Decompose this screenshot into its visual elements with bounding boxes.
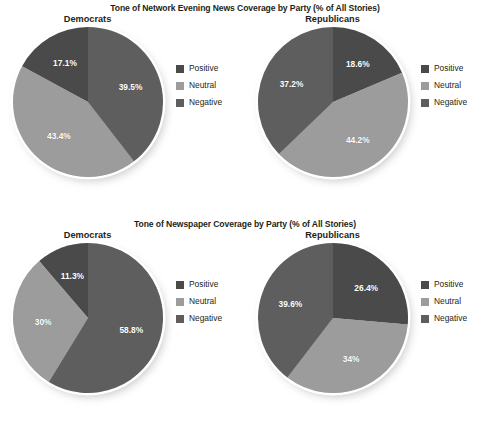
legend-label-negative: Negative <box>189 314 222 322</box>
slice-label-negative: 37.2% <box>280 79 304 89</box>
chart-panel-republicans: Republicans 18.6% 44.2% 37.2% Positive <box>245 14 490 214</box>
chart-section-network-news: Tone of Network Evening News Coverage by… <box>0 0 490 216</box>
legend-item-negative[interactable]: Negative <box>176 310 244 327</box>
slice-label-neutral: 44.2% <box>346 135 370 145</box>
slice-label-positive: 11.3% <box>61 271 84 281</box>
pie-svg <box>258 243 408 393</box>
legend-swatch-positive-icon <box>176 65 184 73</box>
chart-section-newspaper: Tone of Newspaper Coverage by Party (% o… <box>0 216 490 432</box>
pie-slices <box>258 243 408 393</box>
pie-slices <box>258 27 408 177</box>
legend-item-neutral[interactable]: Neutral <box>176 77 244 94</box>
pie-chart-figure: Tone of Network Evening News Coverage by… <box>0 0 490 432</box>
pie-chart-1: 18.6% 44.2% 37.2% <box>258 27 408 177</box>
legend-label-neutral: Neutral <box>434 297 461 305</box>
legend-swatch-negative-icon <box>421 315 429 323</box>
slice-label-positive: 17.1% <box>53 58 77 68</box>
legend-item-positive[interactable]: Positive <box>176 60 244 77</box>
chart-panel-democrats: Democrats 17.1% 43.4% 39.5% Positive <box>0 14 245 214</box>
chart-legend: Positive Neutral Negative <box>176 60 244 111</box>
slice-label-neutral: 43.4% <box>47 131 71 141</box>
pie-slices <box>13 27 163 177</box>
legend-item-negative[interactable]: Negative <box>421 310 489 327</box>
legend-label-neutral: Neutral <box>189 81 216 89</box>
legend-label-negative: Negative <box>434 98 467 106</box>
legend-item-neutral[interactable]: Neutral <box>176 293 244 310</box>
legend-swatch-positive-icon <box>176 281 184 289</box>
slice-label-negative: 39.5% <box>119 82 143 92</box>
pie-body <box>13 27 163 177</box>
chart-legend: Positive Neutral Negative <box>176 276 244 327</box>
chart-legend: Positive Neutral Negative <box>421 60 489 111</box>
section-title: Tone of Newspaper Coverage by Party (% o… <box>0 219 490 229</box>
slice-label-negative: 39.6% <box>279 299 303 309</box>
pie-body <box>258 243 408 393</box>
panel-title: Republicans <box>245 14 420 24</box>
slice-label-neutral: 34% <box>343 354 360 364</box>
legend-item-neutral[interactable]: Neutral <box>421 77 489 94</box>
pie-svg <box>13 27 163 177</box>
legend-label-negative: Negative <box>189 98 222 106</box>
legend-swatch-neutral-icon <box>421 82 429 90</box>
slice-label-negative: 58.8% <box>119 325 143 335</box>
legend-item-negative[interactable]: Negative <box>421 94 489 111</box>
legend-label-positive: Positive <box>434 64 463 72</box>
legend-swatch-neutral-icon <box>176 82 184 90</box>
legend-label-negative: Negative <box>434 314 467 322</box>
chart-panel-republicans: Republicans 26.4% 34% 39.6% Positive <box>245 230 490 430</box>
legend-item-positive[interactable]: Positive <box>421 60 489 77</box>
pie-chart-0: 17.1% 43.4% 39.5% <box>13 27 163 177</box>
legend-label-positive: Positive <box>434 280 463 288</box>
panel-title: Republicans <box>245 230 420 240</box>
section-title: Tone of Network Evening News Coverage by… <box>0 3 490 13</box>
legend-item-neutral[interactable]: Neutral <box>421 293 489 310</box>
slice-label-positive: 26.4% <box>354 283 378 293</box>
legend-swatch-neutral-icon <box>176 298 184 306</box>
legend-swatch-neutral-icon <box>421 298 429 306</box>
pie-chart-2: 11.3% 30% 58.8% <box>13 243 163 393</box>
legend-label-neutral: Neutral <box>189 297 216 305</box>
legend-label-positive: Positive <box>189 280 218 288</box>
legend-swatch-negative-icon <box>176 99 184 107</box>
slice-label-positive: 18.6% <box>346 59 370 69</box>
pie-body <box>258 27 408 177</box>
slice-label-neutral: 30% <box>35 317 52 327</box>
legend-label-positive: Positive <box>189 64 218 72</box>
legend-swatch-positive-icon <box>421 65 429 73</box>
legend-swatch-negative-icon <box>421 99 429 107</box>
legend-item-positive[interactable]: Positive <box>176 276 244 293</box>
pie-chart-3: 26.4% 34% 39.6% <box>258 243 408 393</box>
panel-title: Democrats <box>0 14 175 24</box>
legend-swatch-positive-icon <box>421 281 429 289</box>
panel-title: Democrats <box>0 230 175 240</box>
chart-panel-democrats: Democrats 11.3% 30% 58.8% Positive <box>0 230 245 430</box>
legend-label-neutral: Neutral <box>434 81 461 89</box>
legend-item-positive[interactable]: Positive <box>421 276 489 293</box>
pie-svg <box>258 27 408 177</box>
legend-swatch-negative-icon <box>176 315 184 323</box>
legend-item-negative[interactable]: Negative <box>176 94 244 111</box>
chart-legend: Positive Neutral Negative <box>421 276 489 327</box>
